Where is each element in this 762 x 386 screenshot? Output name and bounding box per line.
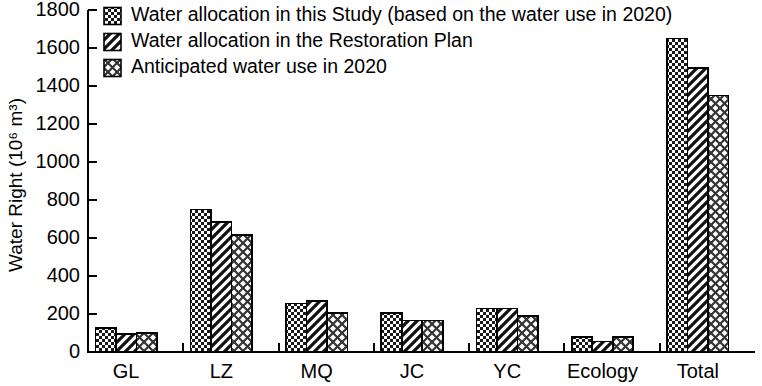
bar [306,301,327,352]
bar [518,316,539,352]
bar [327,313,348,352]
category-label: LZ [210,360,233,382]
bar [613,337,634,352]
bar [95,328,116,352]
y-tick-label: 1800 [36,0,81,20]
y-tick-label: 1000 [36,150,81,172]
bar [422,321,443,352]
bar [688,68,709,352]
bar [592,342,613,352]
category-label: MQ [301,360,333,382]
legend-label: Water allocation in the Restoration Plan [131,29,473,51]
bar [191,210,212,353]
category-label: Ecology [567,360,638,382]
y-tick-label: 1600 [36,36,81,58]
y-tick-label: 600 [47,226,80,248]
legend-swatch [104,8,121,25]
bar-chart: 020040060080010001200140016001800 GLLZMQ… [0,0,762,386]
category-label: Total [677,360,719,382]
category-labels: GLLZMQJCYCEcologyTotal [113,360,719,382]
y-tick-label: 200 [47,302,80,324]
y-tick-label: 1400 [36,74,81,96]
bar [402,321,423,352]
legend-swatch [104,60,121,77]
bar [286,304,307,352]
bars-group [95,39,728,353]
y-tick-label: 1200 [36,112,81,134]
y-tick-label: 400 [47,264,80,286]
chart-legend: Water allocation in this Study (based on… [104,3,672,77]
bar [381,313,402,352]
legend-label: Anticipated water use in 2020 [131,55,387,77]
bar [211,222,232,352]
category-label: GL [113,360,140,382]
y-tick-label: 800 [47,188,80,210]
bar [708,96,729,353]
category-label: JC [400,360,424,382]
chart-canvas: 020040060080010001200140016001800 GLLZMQ… [0,0,762,386]
bar [232,235,253,352]
bar [136,333,157,352]
bar [667,39,688,353]
y-tick-label: 0 [69,340,80,362]
legend-swatch [104,34,121,51]
bar [116,334,137,352]
legend-label: Water allocation in this Study (based on… [131,3,672,25]
bar [572,337,593,352]
bar [497,309,518,352]
category-label: YC [493,360,521,382]
bar [477,309,498,352]
y-axis-title: Water Right (10⁶ m³) [5,98,26,272]
